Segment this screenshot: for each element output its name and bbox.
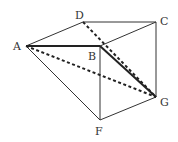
- label-F: F: [95, 125, 103, 138]
- label-B: B: [88, 50, 96, 63]
- label-G: G: [160, 96, 169, 109]
- edge-FG: [100, 97, 156, 120]
- geometry-diagram: A D C B G F: [0, 0, 178, 142]
- label-D: D: [75, 9, 84, 22]
- diagram-canvas: A D C B G F: [0, 0, 178, 142]
- thick-edge-BG: [100, 46, 156, 97]
- edge-BC: [100, 22, 156, 46]
- edge-AD: [26, 22, 83, 46]
- label-C: C: [160, 15, 168, 28]
- label-A: A: [12, 40, 22, 53]
